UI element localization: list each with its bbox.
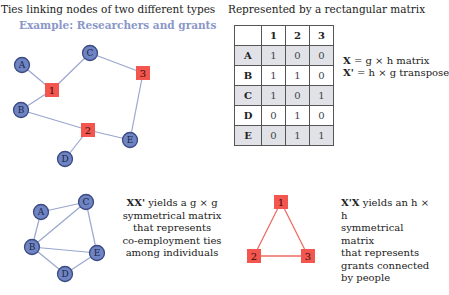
matrix-cell: 1 [310,86,334,106]
svg-text:E: E [127,135,134,145]
matrix-cell: 0 [286,86,310,106]
x-definition: X = g × h matrix [343,55,449,67]
matrix-cell: 1 [286,106,310,126]
matrix-row: C 1 0 1 [235,86,334,106]
person-node-e: E [123,133,138,148]
matrix-row-header: B [235,66,262,86]
matrix-col-header: 2 [286,26,310,46]
svg-text:D: D [61,269,68,279]
x-transpose-definition: X' = h × g transpose [343,67,449,79]
svg-text:3: 3 [305,251,311,262]
matrix-header-row: 1 2 3 [235,26,334,46]
matrix-cell: 1 [286,66,310,86]
person-graph-nodes: ABCDE [25,195,105,282]
grant-projection-description: X'X yields an h × h symmetrical matrix t… [341,197,437,285]
svg-text:C: C [83,197,90,207]
person-node-c: C [83,46,98,61]
matrix-cell: 0 [310,66,334,86]
matrix-cell: 1 [262,46,286,66]
person-node-d: D [58,267,73,282]
matrix-row-header: C [235,86,262,106]
matrix-cell: 1 [286,126,310,146]
svg-text:2: 2 [85,125,91,136]
grant-graph-edges [254,202,308,256]
matrix-cell: 0 [310,106,334,126]
svg-text:A: A [18,60,26,70]
svg-text:B: B [18,105,25,115]
person-node-b: B [14,103,29,118]
matrix-row: B 1 1 0 [235,66,334,86]
person-projection-description: XX' yields a g × g symmetrical matrix th… [118,197,226,260]
matrix-row: A 1 0 0 [235,46,334,66]
matrix-cell: 0 [310,46,334,66]
person-node-a: A [15,58,30,73]
person-node-b: B [25,240,40,255]
matrix-definition: X = g × h matrix X' = h × g transpose [343,55,449,79]
person-node-a: A [34,205,49,220]
grant-node-3: 3 [301,249,315,263]
grant-graph-nodes: 123 [247,195,315,263]
incidence-matrix: 1 2 3 A 1 0 0 B 1 1 0 C 1 0 1 D 0 1 0 E … [234,25,334,146]
matrix-cell: 1 [262,86,286,106]
svg-text:C: C [87,48,94,58]
matrix-cell: 1 [262,66,286,86]
person-node-d: D [58,152,73,167]
edge [281,202,308,256]
edge [21,110,88,130]
svg-text:3: 3 [140,68,146,79]
matrix-col-header: 3 [310,26,334,46]
svg-text:D: D [61,154,68,164]
matrix-corner [235,26,262,46]
person-node-e: E [90,246,105,261]
matrix-col-header: 1 [262,26,286,46]
matrix-row-header: D [235,106,262,126]
grant-node-1: 1 [45,83,59,97]
edge [32,247,97,253]
matrix-row-header: E [235,126,262,146]
grant-node-1: 1 [274,195,288,209]
matrix-cell: 1 [310,126,334,146]
svg-text:2: 2 [251,251,257,262]
matrix-cell: 0 [262,106,286,126]
person-node-c: C [79,195,94,210]
svg-text:1: 1 [278,197,284,208]
svg-text:1: 1 [49,85,55,96]
edge [90,53,143,73]
matrix-cell: 0 [262,126,286,146]
matrix-cell: 0 [286,46,310,66]
matrix-row-header: A [235,46,262,66]
matrix-row: E 0 1 1 [235,126,334,146]
svg-text:A: A [37,207,45,217]
edge [254,202,281,256]
grant-node-2: 2 [81,123,95,137]
grant-node-3: 3 [136,66,150,80]
bipartite-nodes: ABCDE123 [14,46,151,167]
svg-text:E: E [94,248,101,258]
svg-text:B: B [29,242,36,252]
matrix-row: D 0 1 0 [235,106,334,126]
grant-node-2: 2 [247,249,261,263]
edge [130,73,143,140]
